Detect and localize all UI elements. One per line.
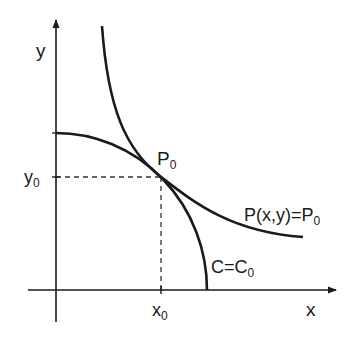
cost-curve-label: C=C0 <box>211 257 255 280</box>
y0-label: y0 <box>24 167 40 190</box>
x0-label: x0 <box>152 300 168 323</box>
tangency-diagram: y x y0 x0 P0 P(x,y)=P0 C=C0 <box>0 0 353 341</box>
isoquant-label: P(x,y)=P0 <box>244 205 321 228</box>
tangent-point-label: P0 <box>157 148 177 172</box>
diagram-canvas: y x y0 x0 P0 P(x,y)=P0 C=C0 <box>0 0 353 341</box>
cost-curve-c0 <box>56 133 207 290</box>
y-axis-label: y <box>36 40 46 61</box>
x-axis-label: x <box>306 299 316 320</box>
